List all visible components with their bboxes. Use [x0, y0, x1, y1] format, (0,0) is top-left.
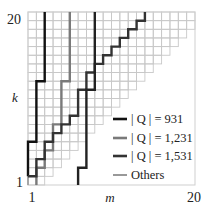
grid-cell — [145, 47, 153, 56]
grid-cell — [120, 64, 128, 73]
grid-cell — [53, 107, 61, 116]
grid-cell — [95, 116, 103, 125]
grid-cell — [128, 29, 136, 38]
grid-cell — [61, 12, 69, 21]
grid-cell — [28, 99, 36, 108]
grid-cell — [103, 38, 111, 47]
grid-cell — [86, 90, 94, 99]
grid-cell — [128, 55, 136, 64]
grid-cell — [86, 38, 94, 47]
grid-cell — [45, 38, 53, 47]
grid-cell — [70, 90, 78, 99]
grid-cell — [28, 124, 36, 133]
grid-cell — [45, 99, 53, 108]
grid-cell — [86, 73, 94, 82]
grid-cell — [178, 21, 186, 30]
grid-cell — [86, 29, 94, 38]
grid-cell — [36, 90, 44, 99]
grid-cell — [162, 21, 170, 30]
grid-cell — [137, 21, 145, 30]
grid-cell — [36, 133, 44, 142]
grid-cell — [36, 107, 44, 116]
grid-cell — [45, 159, 53, 168]
y-min-label: 1 — [16, 175, 23, 190]
grid-cell — [45, 81, 53, 90]
grid-cell — [53, 55, 61, 64]
grid-cell — [95, 12, 103, 21]
grid-cell — [70, 107, 78, 116]
grid-cell — [95, 99, 103, 108]
grid-cell — [120, 81, 128, 90]
grid-cell — [45, 73, 53, 82]
grid-cell — [61, 142, 69, 151]
grid-cell — [120, 29, 128, 38]
grid-cell — [36, 81, 44, 90]
grid-cell — [28, 47, 36, 56]
x-axis-label: m — [105, 190, 114, 205]
grid-cell — [45, 142, 53, 151]
grid-cell — [112, 55, 120, 64]
grid-cell — [28, 29, 36, 38]
grid-cell — [95, 55, 103, 64]
grid-cell — [145, 38, 153, 47]
grid-cell — [61, 124, 69, 133]
grid-cell — [103, 12, 111, 21]
grid-cell — [162, 12, 170, 21]
grid-cell — [70, 99, 78, 108]
grid-cell — [61, 90, 69, 99]
legend-label-1531: | Q | = 1,531 — [131, 149, 193, 163]
grid-cell — [112, 73, 120, 82]
grid-cell — [28, 107, 36, 116]
grid-cell — [128, 73, 136, 82]
grid-cell — [78, 133, 86, 142]
grid-cell — [78, 21, 86, 30]
grid-cell — [178, 29, 186, 38]
grid-cell — [45, 21, 53, 30]
grid-cell — [103, 73, 111, 82]
grid-cell — [28, 142, 36, 151]
grid-cell — [36, 55, 44, 64]
grid-cell — [128, 38, 136, 47]
grid-cell — [28, 133, 36, 142]
grid-cell — [70, 38, 78, 47]
grid-cell — [170, 21, 178, 30]
grid-cell — [120, 21, 128, 30]
grid-cell — [128, 21, 136, 30]
grid-cell — [70, 81, 78, 90]
grid-cell — [145, 21, 153, 30]
grid-cell — [36, 12, 44, 21]
grid-cell — [137, 38, 145, 47]
grid-cell — [61, 55, 69, 64]
grid-cell — [112, 12, 120, 21]
grid-cell — [53, 64, 61, 73]
grid-cell — [153, 38, 161, 47]
grid-cell — [70, 21, 78, 30]
grid-cell — [86, 116, 94, 125]
grid-cell — [162, 38, 170, 47]
legend-label-1231: | Q | = 1,231 — [131, 131, 193, 145]
grid-cell — [61, 133, 69, 142]
grid-cell — [112, 21, 120, 30]
grid-cell — [95, 73, 103, 82]
grid-cell — [36, 168, 44, 177]
grid-cell — [137, 64, 145, 73]
grid-cell — [70, 116, 78, 125]
grid-cell — [145, 64, 153, 73]
grid-cell — [70, 55, 78, 64]
grid-cell — [120, 73, 128, 82]
grid-cell — [78, 29, 86, 38]
grid-cell — [78, 99, 86, 108]
grid-cell — [112, 90, 120, 99]
grid-cell — [153, 21, 161, 30]
grid-cell — [70, 12, 78, 21]
grid-cell — [78, 47, 86, 56]
grid-cell — [36, 29, 44, 38]
grid-cell — [61, 38, 69, 47]
grid-cell — [95, 107, 103, 116]
grid-cell — [103, 47, 111, 56]
grid-cell — [86, 99, 94, 108]
legend-label-931: | Q | = 931 — [131, 112, 183, 126]
grid-cell — [36, 176, 44, 185]
grid-cell — [45, 107, 53, 116]
grid-cell — [120, 38, 128, 47]
